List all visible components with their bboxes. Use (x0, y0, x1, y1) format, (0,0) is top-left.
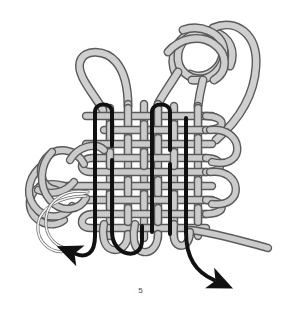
knot-diagram-figure: 5 (0, 0, 281, 312)
figure-caption: 5 (0, 286, 281, 296)
knot-illustration (0, 0, 281, 312)
